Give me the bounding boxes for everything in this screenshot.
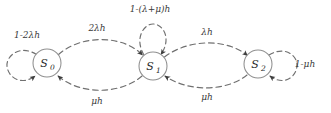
transition-label-s0-to-s1: 2λh: [87, 23, 105, 33]
diagram-canvas: S 0 S 1 S 2 1-2λh 1-(λ+μ)h 1-μh 2λh μh λ…: [0, 0, 331, 113]
self-loop-label-s1: 1-(λ+μ)h: [130, 4, 171, 14]
self-loop-label-s2: 1-μh: [295, 59, 315, 69]
state-label-s0: S: [40, 57, 48, 70]
transition-s0-to-s1: [59, 40, 143, 55]
transition-s1-to-s2: [165, 43, 248, 57]
state-subscript-s2: 2: [260, 64, 266, 73]
transition-label-s1-to-s2: λh: [200, 27, 213, 37]
state-subscript-s0: 0: [50, 63, 55, 72]
self-loop-s0: [7, 50, 37, 80]
state-label-s2: S: [251, 58, 259, 71]
transition-label-s1-to-s0: μh: [91, 96, 103, 106]
state-subscript-s1: 1: [156, 66, 161, 75]
state-node-s2[interactable]: S 2: [244, 50, 272, 78]
transition-label-s2-to-s1: μh: [201, 92, 213, 102]
transition-s2-to-s1: [165, 75, 247, 88]
self-loop-label-s0: 1-2λh: [14, 30, 40, 40]
state-node-s1[interactable]: S 1: [139, 52, 167, 80]
transition-s1-to-s0: [58, 76, 142, 90]
state-node-s0[interactable]: S 0: [33, 49, 61, 77]
state-label-s1: S: [146, 60, 154, 73]
self-loop-s1: [140, 24, 166, 55]
state-transition-diagram: S 0 S 1 S 2 1-2λh 1-(λ+μ)h 1-μh 2λh μh λ…: [0, 0, 331, 113]
self-loop-s2: [269, 51, 297, 80]
